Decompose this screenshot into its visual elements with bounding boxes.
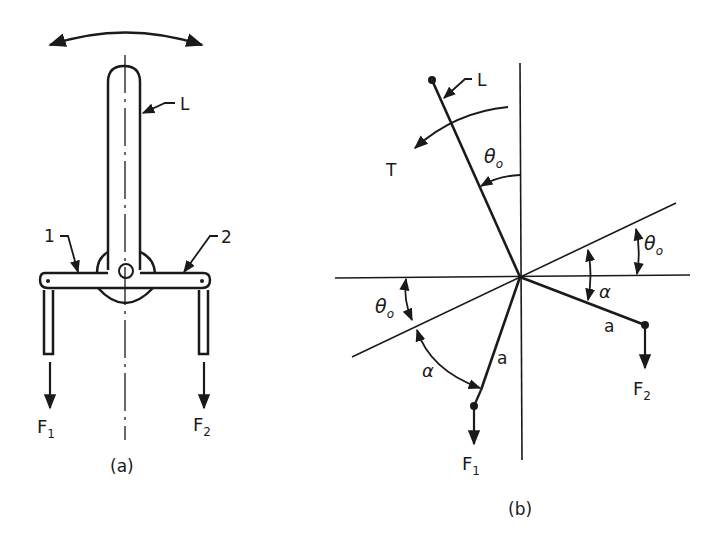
lever-L-b [432, 80, 520, 277]
alpha-right-arc [588, 250, 591, 300]
pivot-circle [119, 264, 133, 278]
hub-upper-right [140, 252, 155, 273]
caption-a: (a) [110, 456, 134, 476]
lever-leader-b [444, 79, 472, 98]
lever-L [108, 66, 140, 270]
arm-right-end-dot [641, 321, 649, 329]
force1-label: F1 [37, 416, 55, 441]
left-pin [46, 279, 50, 283]
arm-left-tail [474, 390, 481, 406]
caption-b: (b) [508, 499, 532, 519]
diagram-canvas: L 1 2 F1 F2 (a) L [0, 0, 725, 546]
lever-leader [143, 103, 175, 113]
torque-arrow-icon [415, 107, 508, 148]
force2-label-b: F2 [633, 378, 651, 403]
theta-left-arc [405, 279, 412, 320]
theta-left-label: θo [375, 295, 394, 321]
rod-right [199, 290, 208, 354]
right-pin [200, 279, 204, 283]
arm1-leader [60, 236, 78, 272]
lever-label: L [180, 94, 190, 114]
alpha-left-label: α [422, 360, 434, 381]
arm2-label: 2 [221, 227, 232, 247]
theta-right-arc [636, 229, 639, 274]
inclined-line [352, 203, 676, 357]
arm-left [481, 277, 520, 390]
force2-label: F2 [193, 414, 211, 439]
lever-end-dot [428, 76, 436, 84]
swing-arrow-icon [50, 33, 202, 46]
rod-left [44, 290, 53, 354]
lever-label-b: L [477, 70, 487, 90]
arm1-label: 1 [44, 226, 55, 246]
theta-top-arc [481, 175, 520, 186]
hub-upper-left [97, 252, 108, 273]
force1-label-b: F1 [462, 453, 480, 478]
vertical-axis [520, 63, 522, 460]
arm2-leader [184, 236, 218, 272]
figure-b: L T θo F2 a θo α F1 a θo α (b) [335, 63, 690, 519]
torque-label: T [385, 160, 397, 180]
theta-right-label: θo [644, 232, 663, 258]
arm-right [520, 277, 645, 325]
theta-top-label: θo [484, 145, 503, 171]
alpha-right-label: α [599, 281, 611, 302]
arm-right-length-label: a [604, 316, 614, 336]
horizontal-axis [335, 275, 690, 278]
figure-a: L 1 2 F1 F2 (a) [37, 33, 232, 477]
arm-left-length-label: a [497, 348, 507, 368]
